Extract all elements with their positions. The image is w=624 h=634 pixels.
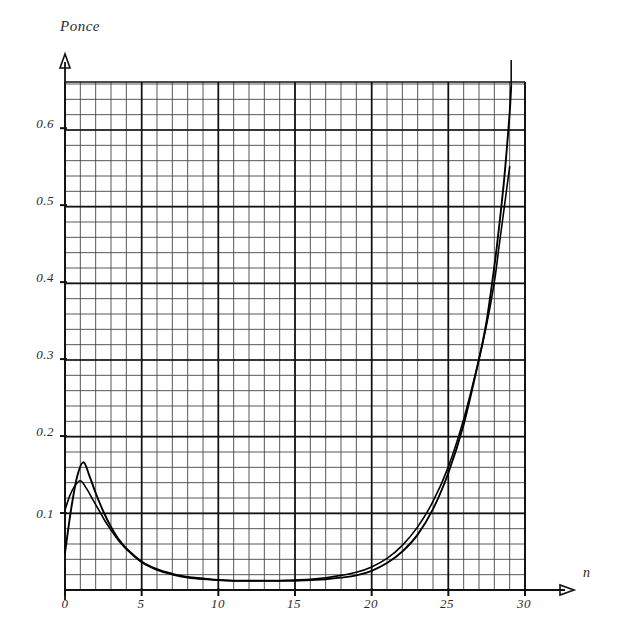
axis-ticks xyxy=(60,128,525,596)
data-series-group xyxy=(65,86,511,581)
grid-major xyxy=(65,82,525,590)
series-curve-1 xyxy=(65,86,511,581)
axis-lines xyxy=(60,54,574,600)
chart-canvas: Ponce 0.6 0.5 0.4 0.3 0.2 0.1 0 5 10 15 … xyxy=(0,0,624,634)
series-curve-2 xyxy=(65,167,510,581)
plot-svg xyxy=(0,0,624,634)
